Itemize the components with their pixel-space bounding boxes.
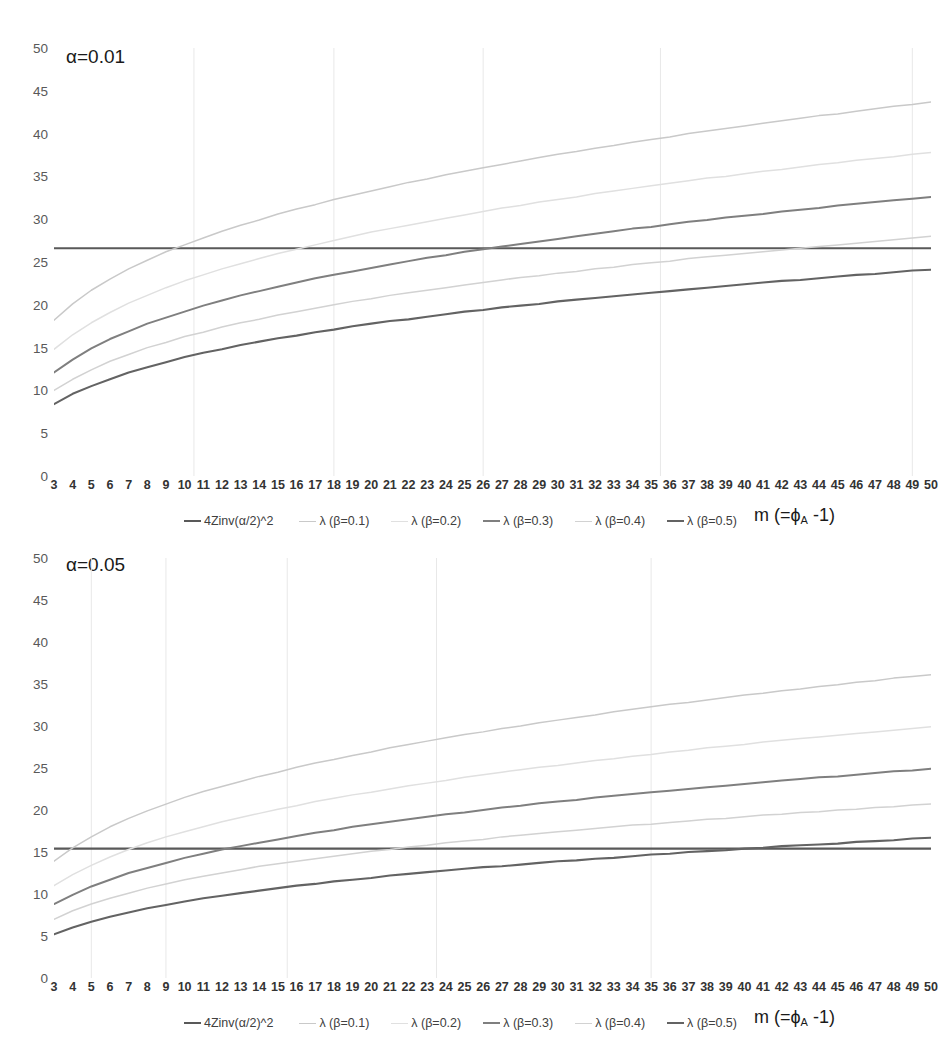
legend-item-2[interactable]: λ (β=0.2) [391, 1016, 461, 1030]
x-tick-label: 45 [831, 478, 845, 492]
x-tick-label: 41 [756, 980, 770, 994]
x-tick-label: 48 [887, 980, 901, 994]
series-line-2 [54, 727, 931, 886]
y-tick-label: 40 [33, 126, 48, 141]
legend-label-0: 4Zinv(α/2)^2 [204, 514, 273, 528]
y-tick-label: 50 [33, 41, 48, 56]
legend-label-1: λ (β=0.1) [319, 1016, 369, 1030]
legend-item-5[interactable]: λ (β=0.5) [667, 514, 737, 528]
legend-label-2: λ (β=0.2) [411, 1016, 461, 1030]
x-tick-label: 23 [420, 980, 434, 994]
x-tick-label: 26 [476, 478, 490, 492]
x-tick-label: 49 [905, 980, 919, 994]
x-tick-label: 50 [924, 980, 938, 994]
x-tick-label: 35 [644, 478, 658, 492]
x-tick-label: 21 [383, 980, 397, 994]
legend-swatch-1 [299, 521, 316, 522]
x-tick-label: 43 [793, 980, 807, 994]
series-line-3 [54, 197, 931, 372]
x-tick-label: 50 [924, 478, 938, 492]
x-tick-label: 36 [663, 980, 677, 994]
plot-area [54, 48, 931, 476]
y-axis-labels: 05101520253035404550 [0, 48, 54, 476]
x-tick-label: 39 [719, 478, 733, 492]
legend-item-3[interactable]: λ (β=0.3) [483, 1016, 553, 1030]
x-tick-label: 27 [495, 478, 509, 492]
x-tick-label: 14 [252, 478, 266, 492]
x-tick-label: 34 [625, 478, 639, 492]
legend-swatch-4 [575, 521, 592, 522]
x-tick-label: 20 [364, 478, 378, 492]
y-tick-label: 15 [33, 845, 48, 860]
legend-item-1[interactable]: λ (β=0.1) [299, 514, 369, 528]
y-tick-label: 35 [33, 677, 48, 692]
x-tick-label: 18 [327, 478, 341, 492]
x-tick-label: 31 [570, 478, 584, 492]
legend-item-5[interactable]: λ (β=0.5) [667, 1016, 737, 1030]
y-tick-label: 10 [33, 383, 48, 398]
x-tick-label: 4 [69, 478, 76, 492]
x-axis-title: m (=ϕA -1) [754, 505, 835, 526]
x-tick-label: 5 [88, 478, 95, 492]
legend-item-0[interactable]: 4Zinv(α/2)^2 [184, 1016, 273, 1030]
series-line-2 [54, 152, 931, 349]
x-tick-label: 35 [644, 980, 658, 994]
legend-label-4: λ (β=0.4) [595, 1016, 645, 1030]
x-tick-label: 24 [439, 478, 453, 492]
x-tick-label: 31 [570, 980, 584, 994]
x-tick-label: 47 [868, 980, 882, 994]
x-tick-label: 36 [663, 478, 677, 492]
x-tick-label: 33 [607, 478, 621, 492]
y-tick-label: 25 [33, 761, 48, 776]
x-tick-label: 37 [681, 478, 695, 492]
y-tick-label: 20 [33, 803, 48, 818]
legend-item-4[interactable]: λ (β=0.4) [575, 514, 645, 528]
chart-panel-alpha-005: α=0.050510152025303540455034567891011121… [0, 540, 931, 1064]
x-tick-label: 15 [271, 980, 285, 994]
chart-panel-alpha-001: α=0.010510152025303540455034567891011121… [0, 0, 931, 540]
x-tick-label: 30 [551, 478, 565, 492]
x-tick-label: 17 [308, 980, 322, 994]
x-tick-label: 45 [831, 980, 845, 994]
x-tick-label: 40 [737, 980, 751, 994]
y-tick-label: 40 [33, 635, 48, 650]
y-tick-label: 30 [33, 719, 48, 734]
legend-label-4: λ (β=0.4) [595, 514, 645, 528]
x-tick-label: 42 [775, 478, 789, 492]
legend-swatch-1 [299, 1023, 316, 1024]
y-tick-label: 0 [40, 971, 48, 986]
x-tick-label: 13 [234, 980, 248, 994]
x-tick-label: 14 [252, 980, 266, 994]
x-tick-label: 38 [700, 478, 714, 492]
x-tick-label: 44 [812, 478, 826, 492]
y-tick-label: 45 [33, 83, 48, 98]
x-tick-label: 22 [402, 478, 416, 492]
x-tick-label: 34 [625, 980, 639, 994]
legend-item-1[interactable]: λ (β=0.1) [299, 1016, 369, 1030]
x-tick-label: 16 [290, 980, 304, 994]
x-tick-label: 26 [476, 980, 490, 994]
x-tick-label: 22 [402, 980, 416, 994]
legend-item-2[interactable]: λ (β=0.2) [391, 514, 461, 528]
legend-item-3[interactable]: λ (β=0.3) [483, 514, 553, 528]
x-tick-label: 19 [346, 478, 360, 492]
x-axis-title: m (=ϕA -1) [754, 1007, 835, 1028]
x-tick-label: 37 [681, 980, 695, 994]
x-tick-label: 7 [125, 980, 132, 994]
legend-item-4[interactable]: λ (β=0.4) [575, 1016, 645, 1030]
x-tick-label: 32 [588, 478, 602, 492]
x-tick-label: 19 [346, 980, 360, 994]
x-tick-label: 11 [197, 980, 210, 994]
x-tick-label: 21 [383, 478, 397, 492]
x-tick-label: 7 [125, 478, 132, 492]
legend-item-0[interactable]: 4Zinv(α/2)^2 [184, 514, 273, 528]
legend-swatch-3 [483, 1022, 500, 1024]
legend-label-5: λ (β=0.5) [687, 1016, 737, 1030]
y-tick-label: 5 [40, 929, 48, 944]
x-tick-label: 40 [737, 478, 751, 492]
y-tick-label: 0 [40, 469, 48, 484]
x-tick-label: 32 [588, 980, 602, 994]
x-tick-label: 20 [364, 980, 378, 994]
x-tick-label: 29 [532, 478, 546, 492]
x-tick-label: 17 [308, 478, 322, 492]
